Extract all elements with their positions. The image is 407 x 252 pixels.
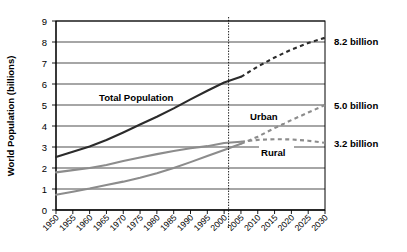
series-projection-total-population xyxy=(241,38,325,77)
y-tick-label: 6 xyxy=(42,79,47,90)
y-tick-label: 0 xyxy=(42,205,47,216)
x-tick-label: 1975 xyxy=(124,212,145,233)
y-tick-marks xyxy=(52,21,56,210)
x-tick-label: 2020 xyxy=(276,212,297,233)
rural-label: Rural xyxy=(261,147,286,158)
urban-end-annotation: 5.0 billion xyxy=(334,100,378,111)
x-tick-marks xyxy=(56,210,325,214)
x-tick-label: 1995 xyxy=(192,212,213,233)
urban-label: Urban xyxy=(250,111,278,122)
rural-end-annotation: 3.2 billion xyxy=(334,138,378,149)
total-population-label: Total Population xyxy=(99,92,174,103)
x-tick-label: 2025 xyxy=(293,212,314,233)
y-tick-labels: 9 8 7 6 5 4 3 2 1 0 xyxy=(42,16,47,216)
y-tick-label: 3 xyxy=(42,142,47,153)
population-chart: 9 8 7 6 5 4 3 2 1 0 World Population (bi… xyxy=(0,0,407,252)
y-tick-label: 7 xyxy=(42,58,47,69)
total-end-annotation: 8.2 billion xyxy=(334,36,378,47)
y-tick-label: 8 xyxy=(42,37,47,48)
chart-canvas: 9 8 7 6 5 4 3 2 1 0 World Population (bi… xyxy=(0,0,407,252)
x-tick-label: 2015 xyxy=(259,212,280,233)
y-axis-title: World Population (billions) xyxy=(5,56,16,177)
y-tick-label: 2 xyxy=(42,163,47,174)
x-tick-label: 1980 xyxy=(141,212,162,233)
x-tick-label: 1985 xyxy=(158,212,179,233)
x-tick-label: 2000 xyxy=(208,212,229,233)
series-lines xyxy=(56,38,325,195)
inline-series-labels: Total Population Urban Rural xyxy=(96,91,294,159)
x-tick-label: 1990 xyxy=(175,212,196,233)
y-tick-label: 9 xyxy=(42,16,47,27)
x-tick-label: 2010 xyxy=(242,212,263,233)
y-tick-label: 5 xyxy=(42,100,47,111)
x-tick-label: 2030 xyxy=(309,212,330,233)
x-tick-label: 1955 xyxy=(57,212,78,233)
y-tick-label: 4 xyxy=(42,121,47,132)
plot-area-border xyxy=(56,21,325,210)
x-tick-label: 1965 xyxy=(91,212,112,233)
x-tick-labels: 1950195519601965197019751980198519901995… xyxy=(40,212,330,233)
x-tick-label: 1960 xyxy=(74,212,95,233)
x-tick-label: 1970 xyxy=(108,212,129,233)
y-tick-label: 1 xyxy=(42,184,47,195)
end-value-annotations: 8.2 billion 5.0 billion 3.2 billion xyxy=(334,36,378,149)
gridlines xyxy=(56,21,325,210)
series-projection-rural xyxy=(241,139,325,143)
